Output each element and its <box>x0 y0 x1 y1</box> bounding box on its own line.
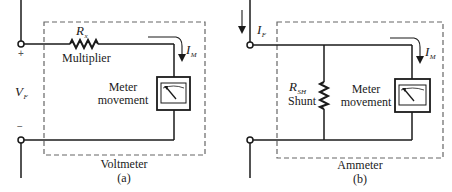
resistor-symbol: R <box>289 79 297 94</box>
output-terminal <box>247 137 253 143</box>
input-terminal <box>247 42 253 48</box>
meter-label-line2: movement <box>98 94 149 106</box>
meter-label-line1: Meter <box>109 81 138 93</box>
voltage-subscript: F <box>23 93 27 101</box>
meter-needle <box>166 87 176 99</box>
shunt-label: Shunt <box>288 95 316 107</box>
meter-current-arrow <box>390 38 420 60</box>
meter-current-arrow <box>148 37 182 58</box>
meter-current-label: IM <box>186 43 197 59</box>
meter-current-label: IM <box>425 45 436 61</box>
meter-label-line2: movement <box>341 96 392 108</box>
panel-a-label: (a) <box>117 172 130 184</box>
voltage-symbol: V <box>15 84 23 99</box>
resistor-subscript: x <box>84 32 87 40</box>
current-symbol: I <box>425 44 429 59</box>
voltage-label: VF <box>15 85 28 101</box>
positive-terminal <box>18 41 24 47</box>
meter-movement-box <box>395 79 430 112</box>
current-subscript: F <box>262 31 266 39</box>
plus-sign: + <box>18 49 24 59</box>
multiplier-label: Multiplier <box>62 52 111 64</box>
ammeter-caption: Ammeter <box>337 159 382 171</box>
meter-movement-box <box>157 77 190 110</box>
minus-sign: − <box>17 122 23 132</box>
current-subscript: M <box>191 51 197 59</box>
current-symbol: I <box>186 42 190 57</box>
diagram-canvas: Rx Multiplier IM Meter movement + − VF V… <box>0 0 452 192</box>
current-symbol: I <box>257 22 261 37</box>
multiplier-resistor <box>70 40 98 48</box>
negative-terminal <box>18 137 24 143</box>
meter-needle <box>404 89 414 101</box>
multiplier-symbol: Rx <box>76 24 88 40</box>
shunt-resistor <box>320 82 328 109</box>
input-current-label: IF <box>257 23 266 39</box>
current-subscript: M <box>430 53 436 61</box>
resistor-symbol: R <box>76 23 84 38</box>
panel-b-label: (b) <box>353 173 367 185</box>
meter-label-line1: Meter <box>352 83 381 95</box>
voltmeter-caption: Voltmeter <box>100 158 147 170</box>
ammeter-circuit <box>242 0 443 178</box>
